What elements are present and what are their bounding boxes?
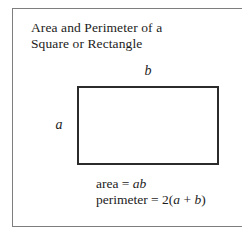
- formula-perimeter-plus: +: [183, 192, 191, 207]
- formula-area: area = ab: [96, 176, 206, 192]
- formula-perimeter: perimeter = 2(a + b): [96, 192, 206, 208]
- formula-perimeter-close-paren: ): [201, 192, 206, 207]
- height-label-a: a: [50, 118, 68, 132]
- figure-root: Area and Perimeter of a Square or Rectan…: [0, 0, 242, 235]
- formula-block: area = ab perimeter = 2(a + b): [96, 176, 206, 208]
- formula-perimeter-coefficient: 2: [162, 192, 169, 207]
- rectangle-shape: [77, 86, 219, 165]
- formula-perimeter-equals: =: [151, 192, 159, 207]
- figure-title-line-1: Area and Perimeter of a: [31, 20, 211, 36]
- formula-area-lhs: area: [96, 176, 118, 191]
- figure-title-line-2: Square or Rectangle: [31, 36, 211, 52]
- width-label-b: b: [77, 64, 219, 78]
- formula-perimeter-lhs: perimeter: [96, 192, 148, 207]
- formula-area-rhs: ab: [133, 176, 147, 191]
- figure-title: Area and Perimeter of a Square or Rectan…: [31, 20, 211, 52]
